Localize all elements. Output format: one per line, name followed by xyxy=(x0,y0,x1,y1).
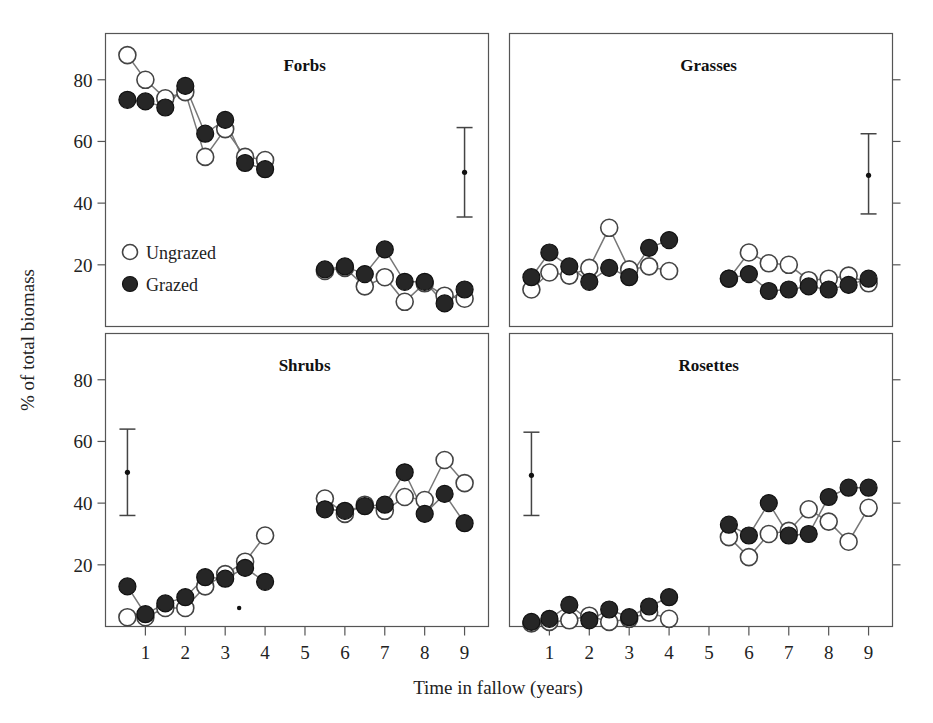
legend: Ungrazed Grazed xyxy=(123,243,216,295)
data-point-ungrazed xyxy=(800,501,817,518)
data-point-grazed xyxy=(760,495,777,512)
data-point-grazed xyxy=(177,77,194,94)
data-point-grazed xyxy=(720,516,737,533)
data-point-grazed xyxy=(820,281,837,298)
data-point-grazed xyxy=(217,111,234,128)
data-point-grazed xyxy=(257,573,274,590)
data-point-grazed xyxy=(336,258,353,275)
data-point-grazed xyxy=(119,91,136,108)
data-point-ungrazed xyxy=(456,475,473,492)
x-tick-label: 2 xyxy=(585,642,595,663)
panel-shrubs: 20406080123456789Shrubs xyxy=(74,334,489,663)
data-point-grazed xyxy=(376,241,393,258)
legend-grazed-label: Grazed xyxy=(146,275,198,295)
data-point-grazed xyxy=(356,498,373,515)
data-point-grazed xyxy=(316,501,333,518)
data-point-ungrazed xyxy=(760,255,777,272)
data-point-ungrazed xyxy=(257,527,274,544)
panel-grasses: Grasses xyxy=(510,34,901,327)
x-tick-label: 4 xyxy=(664,642,674,663)
x-tick-label: 8 xyxy=(824,642,834,663)
data-point-ungrazed xyxy=(641,258,658,275)
data-point-grazed xyxy=(336,502,353,519)
data-point-grazed xyxy=(436,485,453,502)
data-point-grazed xyxy=(581,612,598,629)
panel-grid: 20406080ForbsGrasses20406080123456789Shr… xyxy=(74,34,901,663)
data-point-ungrazed xyxy=(396,489,413,506)
data-point-ungrazed xyxy=(137,71,154,88)
error-bar xyxy=(523,432,539,515)
data-point-ungrazed xyxy=(661,263,678,280)
data-point-grazed xyxy=(780,281,797,298)
data-point-grazed xyxy=(396,273,413,290)
error-bar xyxy=(457,128,473,217)
error-bar-center-dot xyxy=(125,470,130,475)
x-tick-label: 3 xyxy=(624,642,634,663)
y-tick-label: 60 xyxy=(74,431,93,452)
data-point-ungrazed xyxy=(860,499,877,516)
data-point-grazed xyxy=(197,569,214,586)
data-point-ungrazed xyxy=(561,612,578,629)
data-point-ungrazed xyxy=(436,452,453,469)
data-point-grazed xyxy=(157,99,174,116)
panel-title-rosettes: Rosettes xyxy=(678,356,739,375)
legend-ungrazed-label: Ungrazed xyxy=(146,243,216,263)
data-point-grazed xyxy=(416,273,433,290)
error-bar-center-dot xyxy=(462,170,467,175)
x-tick-label: 4 xyxy=(260,642,270,663)
panel-title-shrubs: Shrubs xyxy=(279,356,331,375)
data-point-grazed xyxy=(217,570,234,587)
panel-title-forbs: Forbs xyxy=(283,56,326,75)
y-tick-label: 40 xyxy=(74,493,93,514)
error-bar xyxy=(119,429,135,515)
figure-container: 20406080ForbsGrasses20406080123456789Shr… xyxy=(0,0,933,723)
y-tick-label: 60 xyxy=(74,131,93,152)
data-point-grazed xyxy=(157,595,174,612)
data-point-grazed xyxy=(740,266,757,283)
y-tick-label: 80 xyxy=(74,70,93,91)
data-point-grazed xyxy=(541,610,558,627)
data-point-grazed xyxy=(237,155,254,172)
data-point-grazed xyxy=(621,609,638,626)
x-tick-label: 6 xyxy=(744,642,754,663)
data-point-grazed xyxy=(456,515,473,532)
data-point-grazed xyxy=(641,239,658,256)
data-point-ungrazed xyxy=(376,269,393,286)
data-point-grazed xyxy=(800,278,817,295)
data-point-ungrazed xyxy=(780,256,797,273)
data-point-ungrazed xyxy=(197,148,214,165)
x-tick-label: 7 xyxy=(380,642,390,663)
data-point-ungrazed xyxy=(820,513,837,530)
x-axis-title: Time in fallow (years) xyxy=(413,677,583,699)
data-point-ungrazed xyxy=(119,47,136,64)
data-point-grazed xyxy=(436,295,453,312)
x-tick-label: 1 xyxy=(545,642,555,663)
data-point-grazed xyxy=(860,270,877,287)
data-point-grazed xyxy=(601,259,618,276)
data-point-grazed xyxy=(621,269,638,286)
data-point-grazed xyxy=(197,125,214,142)
legend-ungrazed-marker-icon xyxy=(123,245,138,260)
error-bar xyxy=(861,134,877,214)
data-point-grazed xyxy=(376,496,393,513)
data-point-grazed xyxy=(177,589,194,606)
data-point-grazed xyxy=(257,161,274,178)
data-point-ungrazed xyxy=(541,264,558,281)
data-point-grazed xyxy=(237,559,254,576)
x-tick-label: 5 xyxy=(300,642,310,663)
data-point-grazed xyxy=(316,261,333,278)
data-point-grazed xyxy=(541,244,558,261)
y-axis-title: % of total biomass xyxy=(17,269,38,411)
data-point-grazed xyxy=(740,527,757,544)
x-tick-label: 7 xyxy=(784,642,794,663)
x-tick-label: 8 xyxy=(420,642,430,663)
data-point-grazed xyxy=(456,281,473,298)
data-point-grazed xyxy=(720,270,737,287)
y-tick-label: 20 xyxy=(74,255,93,276)
panel-frame-rosettes xyxy=(510,334,893,627)
data-point-grazed xyxy=(840,479,857,496)
data-point-ungrazed xyxy=(760,526,777,543)
data-point-ungrazed xyxy=(840,533,857,550)
data-point-grazed xyxy=(661,232,678,249)
data-point-grazed xyxy=(523,613,540,630)
